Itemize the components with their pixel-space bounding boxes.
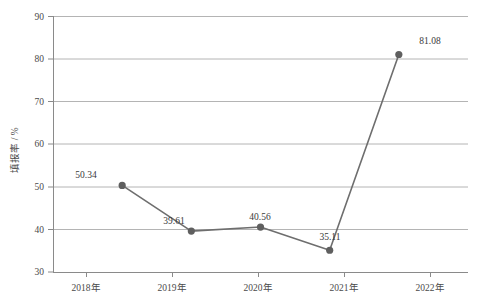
data-label-2020: 40.56 bbox=[249, 212, 271, 222]
data-point-2022[interactable] bbox=[395, 51, 402, 58]
chart-background bbox=[0, 0, 479, 308]
y-axis-title: 填报率 / % bbox=[9, 127, 20, 172]
x-tick-label-2018: 2018年 bbox=[72, 282, 101, 293]
line-chart: 90 80 70 60 50 40 30 填报率 / % 2018年 2019年… bbox=[0, 0, 479, 308]
data-label-2021: 35.11 bbox=[319, 232, 340, 242]
x-tick-label-2019: 2019年 bbox=[158, 282, 187, 293]
data-point-2018[interactable] bbox=[119, 182, 126, 189]
chart-canvas: 90 80 70 60 50 40 30 填报率 / % 2018年 2019年… bbox=[0, 0, 479, 308]
data-point-2019[interactable] bbox=[188, 227, 195, 234]
y-tick-label-50: 50 bbox=[35, 182, 45, 192]
x-tick-label-2022: 2022年 bbox=[416, 282, 445, 293]
data-label-2018: 50.34 bbox=[75, 170, 97, 180]
y-tick-label-80: 80 bbox=[35, 54, 45, 64]
data-point-2020[interactable] bbox=[257, 223, 264, 230]
y-tick-label-70: 70 bbox=[35, 97, 45, 107]
y-tick-label-30: 30 bbox=[35, 267, 45, 277]
x-tick-label-2021: 2021年 bbox=[330, 282, 359, 293]
data-label-2022: 81.08 bbox=[419, 36, 441, 46]
data-label-2019: 39.61 bbox=[163, 216, 185, 226]
y-tick-label-60: 60 bbox=[35, 139, 45, 149]
data-point-2021[interactable] bbox=[326, 247, 333, 254]
y-tick-label-90: 90 bbox=[35, 12, 45, 22]
x-tick-label-2020: 2020年 bbox=[244, 282, 273, 293]
y-tick-label-40: 40 bbox=[35, 225, 45, 235]
